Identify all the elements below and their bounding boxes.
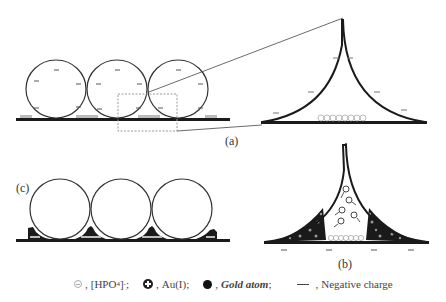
label-c: (c) <box>16 181 29 195</box>
cusp-outline-b <box>265 145 427 242</box>
legend-hpo4: , [HPO4]- ; <box>74 278 129 290</box>
spheres-c <box>30 179 212 239</box>
panel-b <box>264 145 429 250</box>
zoom-line-top <box>149 18 343 92</box>
spheres-a <box>26 60 208 118</box>
gold-deposits-c <box>28 226 217 239</box>
cusp-top <box>261 20 427 148</box>
label-a: (a) <box>225 134 238 148</box>
gold-atom-icon <box>203 280 212 289</box>
substrate-b <box>264 241 429 244</box>
legend-negative: , Negative charge <box>297 278 392 290</box>
cusp-outline-top <box>262 20 425 122</box>
substrate-cusp-top <box>261 121 427 124</box>
negative-charge-icon <box>297 284 309 285</box>
au-ion-icon <box>143 279 153 289</box>
hpo4-row-top <box>318 115 366 121</box>
legend: , [HPO4]- ; , Au(I); , Gold atom ; , Neg… <box>74 276 407 292</box>
panel-a <box>16 18 343 131</box>
label-b: (b) <box>338 257 352 272</box>
hpo4-row-b <box>328 235 363 240</box>
zoom-box <box>118 94 177 131</box>
sphere-1 <box>26 60 86 118</box>
substrate-a <box>16 118 230 121</box>
zoom-line-bottom <box>177 125 262 131</box>
legend-au: , Au(I); <box>143 278 189 290</box>
hpo4-icon <box>74 280 82 288</box>
diagram-canvas: (a) (c) <box>0 0 446 302</box>
legend-gold: , Gold atom ; <box>203 278 271 290</box>
panel-c <box>16 179 230 242</box>
hpo4-c <box>30 236 215 238</box>
negative-charges-cusp-top <box>273 58 407 113</box>
sphere-2 <box>87 60 147 118</box>
